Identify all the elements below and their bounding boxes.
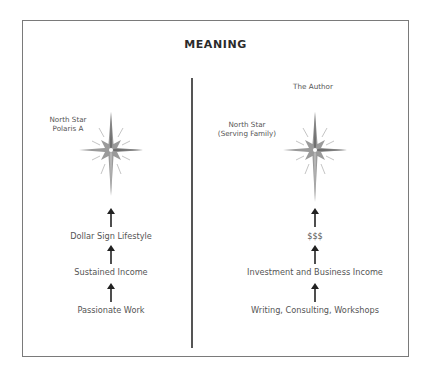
north-star-icon (282, 110, 348, 204)
north-star-icon (78, 110, 144, 200)
left-step-2: Sustained Income (74, 268, 147, 278)
arrow-up-icon (106, 245, 116, 264)
arrow-up-icon (310, 283, 320, 302)
right-step-2: Investment and Business Income (247, 268, 383, 278)
arrow-up-icon (310, 208, 320, 227)
arrow-up-icon (310, 245, 320, 264)
left-step-3: Passionate Work (77, 306, 144, 316)
right-star-label-line1: North Star (218, 120, 276, 129)
arrow-up-icon (106, 208, 116, 227)
right-header: The Author (293, 82, 333, 91)
diagram-title: MEANING (0, 38, 431, 51)
right-step-1: $$$ (307, 232, 323, 242)
arrow-up-icon (106, 283, 116, 302)
left-step-1: Dollar Sign Lifestyle (70, 232, 152, 242)
column-divider (191, 78, 193, 348)
right-step-3: Writing, Consulting, Workshops (251, 306, 379, 316)
right-star-label-line2: (Serving Family) (218, 129, 276, 138)
right-star-label: North Star (Serving Family) (218, 120, 276, 138)
